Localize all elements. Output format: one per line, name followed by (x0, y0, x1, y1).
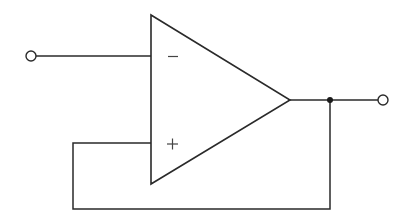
op-amp-triangle (151, 15, 290, 184)
output-junction-dot (327, 97, 333, 103)
input-terminal-icon (26, 51, 36, 61)
output-terminal-icon (378, 95, 388, 105)
op-amp-circuit-diagram (0, 0, 407, 213)
